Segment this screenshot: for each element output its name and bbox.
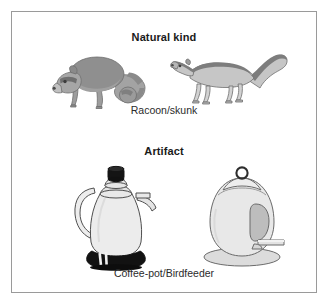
skunk-illustration [170, 50, 290, 109]
heading-natural-kind: Natural kind [12, 31, 316, 43]
coffee-pot-illustration [64, 164, 174, 276]
birdfeeder-illustration [190, 164, 300, 274]
caption-racoon-skunk: Racoon/skunk [12, 104, 316, 116]
figure-frame: Natural kind [11, 11, 317, 293]
caption-coffee-pot-birdfeeder: Coffee-pot/Birdfeeder [12, 267, 316, 279]
heading-artifact: Artifact [12, 145, 316, 157]
figure-root: Natural kind [0, 0, 328, 307]
